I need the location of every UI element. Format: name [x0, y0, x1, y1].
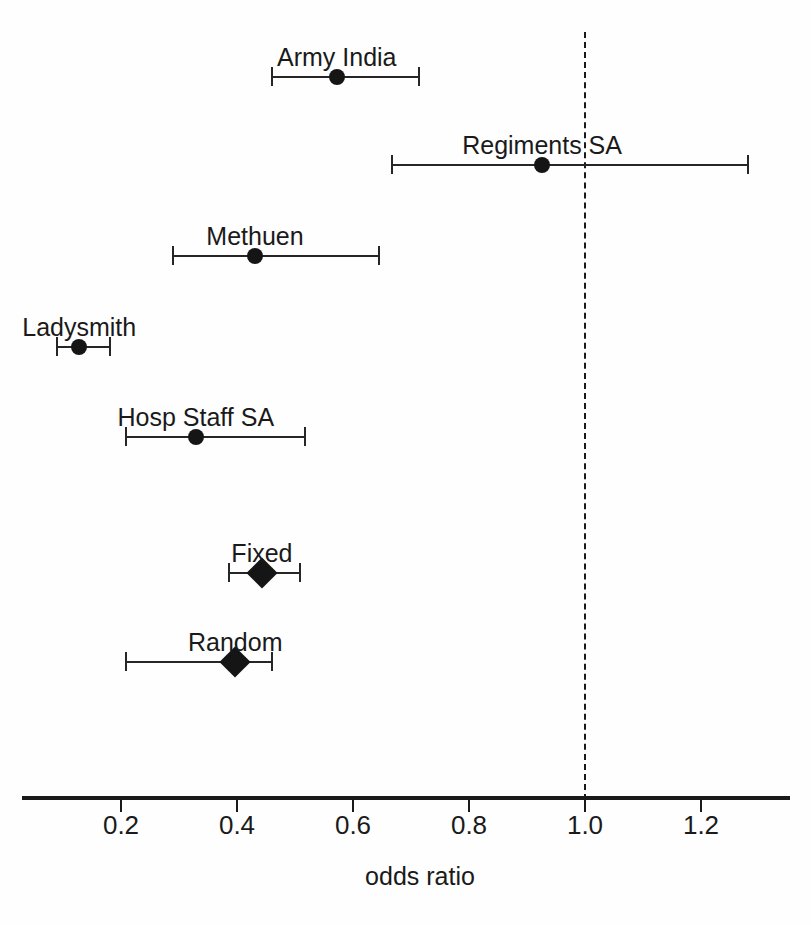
confidence-interval-cap-high — [418, 67, 420, 86]
point-estimate-marker — [329, 69, 345, 85]
point-estimate-marker — [71, 339, 87, 355]
confidence-interval-line — [392, 164, 748, 166]
confidence-interval-cap-high — [304, 427, 306, 446]
confidence-interval-cap-low — [271, 67, 273, 86]
study-label-fixed: Fixed — [231, 541, 292, 566]
confidence-interval-line — [272, 76, 419, 78]
x-axis-tick-label: 1.0 — [567, 812, 603, 838]
study-label-regiments-sa: Regiments SA — [462, 133, 622, 158]
confidence-interval-line — [173, 255, 379, 257]
x-axis-tick-label: 0.2 — [103, 812, 139, 838]
x-axis-title: odds ratio — [365, 864, 475, 889]
x-axis-tick-label: 0.8 — [451, 812, 487, 838]
confidence-interval-cap-low — [125, 652, 127, 671]
point-estimate-marker — [534, 157, 550, 173]
confidence-interval-cap-high — [378, 246, 380, 265]
confidence-interval-cap-low — [391, 155, 393, 174]
forest-plot: Army IndiaRegiments SAMethuenLadysmithHo… — [0, 0, 811, 925]
confidence-interval-cap-high — [747, 155, 749, 174]
point-estimate-marker — [247, 248, 263, 264]
study-label-ladysmith: Ladysmith — [22, 315, 136, 340]
confidence-interval-cap-high — [299, 563, 301, 582]
x-axis-line — [22, 796, 790, 800]
x-axis-tick-label: 0.4 — [219, 812, 255, 838]
study-label-methuen: Methuen — [206, 224, 303, 249]
confidence-interval-cap-low — [172, 246, 174, 265]
study-label-random: Random — [188, 630, 283, 655]
confidence-interval-line — [126, 436, 305, 438]
x-axis-tick-label: 1.2 — [683, 812, 719, 838]
confidence-interval-cap-low — [228, 563, 230, 582]
point-estimate-marker — [188, 429, 204, 445]
study-label-army-india: Army India — [277, 45, 396, 70]
x-axis-tick-label: 0.6 — [335, 812, 371, 838]
study-label-hosp-staff-sa: Hosp Staff SA — [118, 405, 275, 430]
